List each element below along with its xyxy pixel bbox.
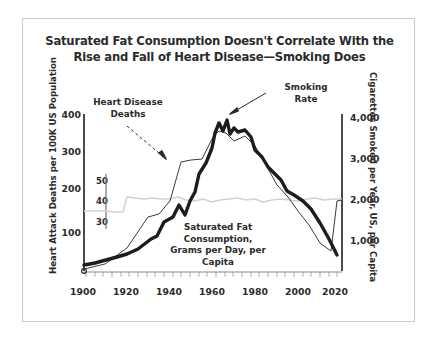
chart-plot-area <box>23 19 416 323</box>
chart-figure: Saturated Fat Consumption Doesn't Correl… <box>22 18 415 322</box>
annotation-arrow-smoking-rate <box>230 93 266 114</box>
annotation-arrow-heart-disease <box>127 126 166 159</box>
x-axis-minor-ticks <box>86 272 337 277</box>
